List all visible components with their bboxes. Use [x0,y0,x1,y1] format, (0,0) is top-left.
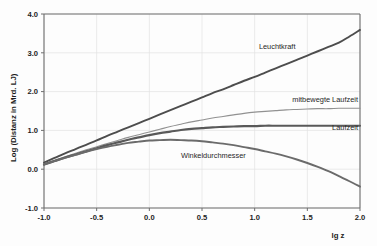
y-tick-label: 3.0 [27,49,38,58]
x-tick-label: 1.0 [249,213,260,222]
chart-canvas: -1.00.01.02.03.04.0-1.0-0.50.00.51.01.52… [0,0,377,246]
x-tick-label: -1.0 [37,213,50,222]
curve-label-winkeldurchmesser: Winkeldurchmesser [181,151,246,160]
curve-label-leuchtkraft: Leuchtkraft [259,42,296,51]
x-tick-label: -0.5 [90,213,104,222]
axis-tick-labels: -1.00.01.02.03.04.0-1.0-0.50.00.51.01.52… [25,10,365,222]
y-axis-title: Log (Distanz in Mrd. LJ) [9,73,18,162]
y-tick-label: 2.0 [27,87,38,96]
x-tick-label: 2.0 [355,213,366,222]
x-tick-label: 0.0 [144,213,155,222]
x-tick-label: 1.5 [302,213,313,222]
axis-ticks [41,14,360,211]
y-tick-label: 0.0 [27,165,38,174]
x-tick-label: 0.5 [197,213,208,222]
y-tick-label: 1.0 [27,126,38,135]
gridlines [44,14,360,208]
y-tick-label: -1.0 [25,204,38,213]
curve-label-mitbewegte-laufzeit: mitbewegte Laufzeit [292,95,358,104]
y-tick-label: 4.0 [27,10,38,19]
chart-figure: -1.00.01.02.03.04.0-1.0-0.50.00.51.01.52… [0,0,377,246]
x-axis-title: lg z [332,231,345,240]
curve-label-laufzeit: Laufzeit [332,123,358,132]
